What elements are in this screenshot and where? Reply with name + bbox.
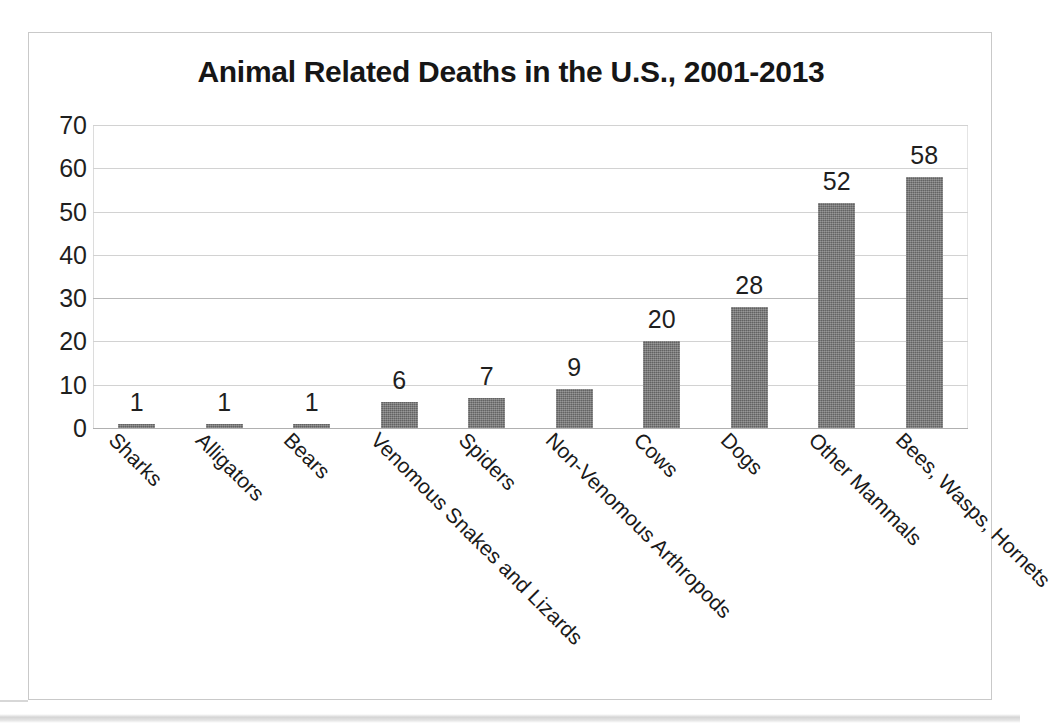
y-axis: 706050403020100 xyxy=(29,125,87,428)
x-tick-label: Bees, Wasps, Hornets xyxy=(891,428,1053,592)
chart-frame: Animal Related Deaths in the U.S., 2001-… xyxy=(28,32,992,700)
bar-value-label: 9 xyxy=(539,355,609,380)
bar xyxy=(643,341,680,428)
bar-value-label: 7 xyxy=(452,364,522,389)
x-tick-label: Sharks xyxy=(104,428,167,491)
bar xyxy=(381,402,418,428)
bar-value-label: 1 xyxy=(277,390,347,415)
bar-value-label: 52 xyxy=(802,169,872,194)
bar xyxy=(556,389,593,428)
bar xyxy=(906,177,943,428)
bar-value-label: 1 xyxy=(102,390,172,415)
x-tick-label: Bears xyxy=(279,428,335,484)
plot-left-edge xyxy=(93,125,94,428)
y-tick-label-70: 70 xyxy=(41,113,87,138)
y-tick-label-10: 10 xyxy=(41,373,87,398)
x-tick-label: Spiders xyxy=(454,428,521,495)
bar-value-label: 58 xyxy=(889,143,959,168)
bar xyxy=(468,398,505,428)
y-tick-label-20: 20 xyxy=(41,329,87,354)
x-axis: SharksAlligatorsBearsVenomous Snakes and… xyxy=(93,428,968,678)
x-tick-label: Dogs xyxy=(716,428,768,480)
gridline-70 xyxy=(93,125,968,126)
plot-right-edge xyxy=(967,125,968,428)
bar xyxy=(818,203,855,428)
scan-artifact xyxy=(0,714,1020,723)
bar-value-label: 1 xyxy=(189,390,259,415)
y-tick-label-50: 50 xyxy=(41,200,87,225)
chart-title: Animal Related Deaths in the U.S., 2001-… xyxy=(29,55,993,89)
y-tick-label-30: 30 xyxy=(41,286,87,311)
bar xyxy=(731,307,768,428)
x-tick-label: Cows xyxy=(629,428,683,482)
scan-artifact-left xyxy=(0,700,28,702)
x-tick-label: Non-Venomous Arthropods xyxy=(541,428,736,623)
y-tick-label-0: 0 xyxy=(41,416,87,441)
y-tick-label-40: 40 xyxy=(41,243,87,268)
bar-value-label: 20 xyxy=(627,307,697,332)
bar-value-label: 6 xyxy=(364,368,434,393)
x-tick-label: Alligators xyxy=(191,428,269,506)
y-tick-label-60: 60 xyxy=(41,156,87,181)
bar-value-label: 28 xyxy=(714,273,784,298)
